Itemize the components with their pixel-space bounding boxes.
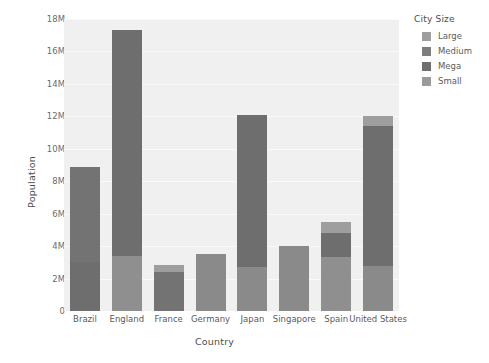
bar-segment[interactable] <box>112 30 142 255</box>
legend-item[interactable]: Medium <box>414 46 472 56</box>
bar-segment[interactable] <box>363 116 393 127</box>
y-axis-tick-label: 16M <box>47 46 65 56</box>
x-axis-title: Country <box>0 336 489 347</box>
x-axis-tick-label: United States <box>349 314 407 324</box>
legend-swatch-icon <box>422 47 431 56</box>
bar-segment[interactable] <box>363 266 393 311</box>
y-axis-title: Population <box>26 156 37 208</box>
legend-item-label: Small <box>438 76 462 86</box>
bar-segment[interactable] <box>70 262 100 311</box>
bar-segment[interactable] <box>196 254 226 311</box>
legend-item-label: Large <box>438 31 462 41</box>
bar-segment[interactable] <box>237 267 267 311</box>
bar-stack[interactable] <box>363 19 393 311</box>
y-axis-tick-label: 12M <box>47 111 65 121</box>
bar-segment[interactable] <box>154 265 184 272</box>
bar-segment[interactable] <box>70 167 100 263</box>
bar-segment[interactable] <box>154 272 184 311</box>
legend-swatch-icon <box>422 77 431 86</box>
y-axis-tick-label: 10M <box>47 144 65 154</box>
population-bar-chart: Population 02M4M6M8M10M12M14M16M18M Braz… <box>0 0 489 363</box>
bar-segment[interactable] <box>363 126 393 266</box>
legend-swatch-icon <box>422 62 431 71</box>
x-axis-tick-label: England <box>110 314 145 324</box>
x-axis-tick-label: Brazil <box>73 314 97 324</box>
plot-area <box>64 19 399 311</box>
bar-series-group <box>64 19 399 311</box>
x-axis-tick-label: Spain <box>324 314 348 324</box>
bar-stack[interactable] <box>112 19 142 311</box>
bar-stack[interactable] <box>237 19 267 311</box>
x-axis-tick-label: Germany <box>191 314 230 324</box>
legend-title: City Size <box>414 14 472 24</box>
y-axis-tick-label: 14M <box>47 79 65 89</box>
bar-stack[interactable] <box>279 19 309 311</box>
bar-segment[interactable] <box>279 246 309 311</box>
bar-segment[interactable] <box>112 256 142 311</box>
bar-segment[interactable] <box>321 222 351 233</box>
bar-segment[interactable] <box>237 115 267 267</box>
legend-item-label: Mega <box>438 61 461 71</box>
legend-item[interactable]: Small <box>414 76 472 86</box>
bar-segment[interactable] <box>321 257 351 311</box>
legend-item[interactable]: Large <box>414 31 472 41</box>
bar-stack[interactable] <box>154 19 184 311</box>
x-axis-tick-label: Singapore <box>273 314 316 324</box>
x-axis-tick-label: Japan <box>241 314 265 324</box>
x-axis-title-text: Country <box>195 336 234 347</box>
legend-item-label: Medium <box>438 46 472 56</box>
y-axis-tick-label: 18M <box>47 14 65 24</box>
legend-item[interactable]: Mega <box>414 61 472 71</box>
bar-segment[interactable] <box>321 233 351 257</box>
legend-items: LargeMediumMegaSmall <box>414 31 472 86</box>
legend: City Size LargeMediumMegaSmall <box>414 14 472 91</box>
x-axis-tick-label: France <box>155 314 183 324</box>
bar-stack[interactable] <box>70 19 100 311</box>
legend-swatch-icon <box>422 32 431 41</box>
bar-stack[interactable] <box>196 19 226 311</box>
bar-stack[interactable] <box>321 19 351 311</box>
